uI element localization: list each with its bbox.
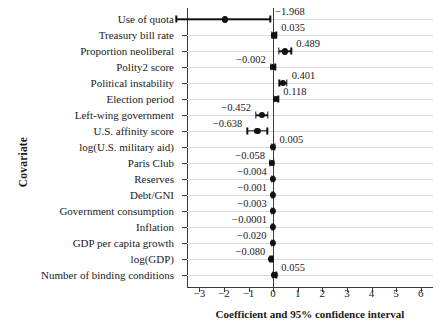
y-axis-tick-label: Debt/GNI [130,189,174,201]
coefficient-point [270,240,276,246]
coefficient-value-label: −0.058 [235,149,265,160]
y-axis-tick-label: Reserves [134,173,174,185]
coefficient-point [259,112,265,118]
coefficient-plot: Covariate Use of quotaTreasury bill rate… [0,0,439,334]
y-axis-tick [182,179,187,180]
y-axis-tick-label: U.S. affinity score [94,125,174,137]
gridline [187,275,433,276]
coefficient-value-label: −0.003 [237,197,267,208]
y-axis-tick [182,99,187,100]
y-axis-tick [182,115,187,116]
y-axis-tick-label: Inflation [136,221,174,233]
confidence-interval-cap [255,112,256,119]
y-axis-tick [182,35,187,36]
confidence-interval-cap [247,128,248,135]
gridline [187,35,433,36]
coefficient-point [254,128,260,134]
coefficient-point [270,208,276,214]
gridline [187,67,433,68]
coefficient-value-label: −0.001 [238,181,268,192]
confidence-interval-cap [267,128,268,135]
x-axis-tick-label: 4 [369,287,375,299]
coefficient-value-label: −0.0001 [232,213,267,224]
confidence-interval-cap [278,48,279,55]
coefficient-value-label: 0.118 [283,86,306,97]
x-axis-tick-label: 0 [270,287,276,299]
coefficient-value-label: −0.020 [237,229,267,240]
coefficient-value-label: −1.968 [275,6,305,17]
coefficient-point [270,176,276,182]
y-axis-tick [182,67,187,68]
gridline [187,147,433,148]
gridline [187,243,433,244]
y-axis-tick-label: Election period [106,93,174,105]
gridline [187,99,433,100]
coefficient-value-label: 0.035 [281,22,305,33]
y-axis-tick [182,259,187,260]
y-axis-tick [182,163,187,164]
y-axis-tick [182,147,187,148]
coefficient-value-label: 0.005 [280,134,304,145]
y-axis-tick-label: Political instability [91,77,174,89]
y-axis-tick-label: Paris Club [128,157,174,169]
y-axis-tick-label: Treasury bill rate [99,29,174,41]
coefficient-value-label: −0.004 [237,165,267,176]
coefficient-value-label: 0.055 [281,261,305,272]
x-axis-tick-label: 3 [344,287,350,299]
coefficient-point [282,48,288,54]
y-axis-tick [182,131,187,132]
y-axis-tick-label: Polity2 score [116,61,174,73]
x-axis-tick-label: −3 [193,287,205,299]
gridline [187,131,433,132]
y-axis-tick [182,275,187,276]
y-axis-tick-label: log(U.S. military aid) [79,141,174,153]
y-axis-tick [182,195,187,196]
coefficient-value-label: 0.489 [296,38,320,49]
coefficient-point [270,144,276,150]
confidence-interval-cap [291,48,292,55]
coefficient-value-label: −0.080 [236,245,266,256]
coefficient-point [270,192,276,198]
y-axis-tick [182,227,187,228]
plot-area [187,8,433,287]
y-axis-tick-label: Proportion neoliberal [80,45,174,57]
gridline [187,51,433,52]
x-axis-tick-label: 2 [320,287,326,299]
x-axis-tick-label: 1 [295,287,301,299]
gridline [187,259,433,260]
coefficient-point [270,224,276,230]
y-axis-tick-label: Government consumption [59,205,174,217]
y-axis-tick-label: Number of binding conditions [41,269,174,281]
confidence-interval-cap [269,16,270,23]
x-axis-tick-label: 6 [418,287,424,299]
y-axis-tick-label: GDP per capita growth [73,237,174,249]
x-axis-tick-label: −2 [218,287,230,299]
y-axis-tick [182,51,187,52]
gridline [187,195,433,196]
x-axis-tick-label: −1 [243,287,255,299]
gridline [187,227,433,228]
x-axis-tick-label: 5 [393,287,399,299]
confidence-interval-cap [176,16,177,23]
y-axis-tick [182,243,187,244]
y-axis-tick-label: log(GDP) [131,253,174,265]
coefficient-point [222,16,228,22]
gridline [187,179,433,180]
gridline [187,115,433,116]
coefficient-value-label: −0.638 [213,118,243,129]
y-axis-tick [182,83,187,84]
gridline [187,83,433,84]
gridline [187,211,433,212]
coefficient-value-label: −0.452 [221,102,251,113]
coefficient-value-label: −0.002 [236,54,266,65]
gridline [187,163,433,164]
y-axis-tick [182,211,187,212]
y-axis-tick-labels: Use of quotaTreasury bill rateProportion… [0,8,181,287]
x-axis-title: Coefficient and 95% confidence interval [187,308,433,320]
y-axis-tick-label: Left-wing government [75,109,174,121]
coefficient-value-label: 0.401 [292,70,316,81]
y-axis-tick-label: Use of quota [118,13,174,25]
confidence-interval-cap [267,112,268,119]
